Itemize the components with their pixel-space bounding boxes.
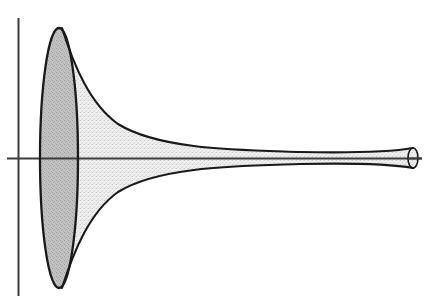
figure-container: Gabriel's Horn — [0, 0, 426, 302]
gabriels-horn-figure: Gabriel's Horn — [0, 0, 426, 302]
